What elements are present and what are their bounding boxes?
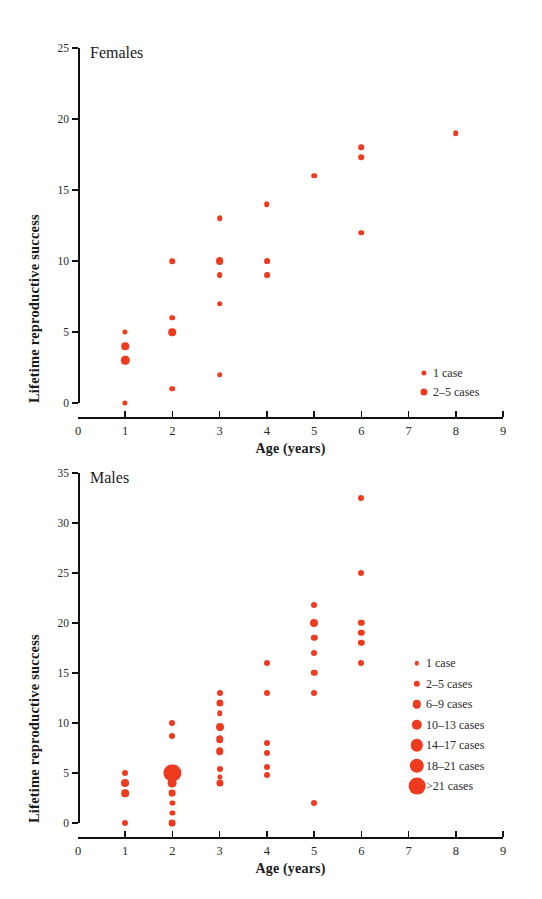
data-point — [358, 660, 364, 666]
data-point — [358, 495, 364, 501]
x-tick — [361, 831, 363, 837]
y-tick-label: 0 — [44, 817, 69, 829]
legend-swatch-cell — [408, 696, 426, 713]
x-tick — [455, 831, 457, 837]
data-point — [217, 766, 223, 772]
legend-marker — [421, 370, 426, 375]
legend-marker — [415, 661, 419, 665]
legend-males: 1 case2–5 cases6–9 cases10–13 cases14–17… — [408, 653, 484, 797]
legend-label: 2–5 cases — [426, 678, 472, 690]
data-point — [311, 173, 317, 179]
data-point — [216, 257, 224, 265]
x-tick — [313, 831, 315, 837]
data-point — [358, 570, 364, 576]
x-tick-label: 4 — [264, 844, 270, 859]
data-point — [311, 602, 317, 608]
y-tick — [72, 189, 78, 191]
x-tick — [172, 831, 174, 837]
data-point — [169, 820, 176, 827]
x-tick — [172, 411, 174, 417]
panel-title-females: Females — [90, 44, 143, 62]
y-tick — [72, 402, 78, 404]
data-point — [121, 789, 129, 797]
legend-swatch-cell — [408, 675, 426, 692]
data-point — [216, 779, 223, 786]
y-tick-label: 30 — [44, 517, 69, 529]
y-tick-label: 5 — [44, 767, 69, 779]
x-tick-label: 5 — [311, 424, 317, 439]
data-point — [217, 372, 223, 378]
data-point — [217, 710, 223, 716]
x-tick-label: 3 — [217, 424, 223, 439]
data-point — [169, 790, 176, 797]
legend-marker — [414, 681, 420, 687]
data-point — [168, 779, 177, 788]
panel-males: 051015202530350123456789 Males Lifetime … — [0, 455, 542, 899]
x-axis-line — [78, 417, 503, 419]
legend-swatch-cell — [408, 655, 426, 672]
y-tick — [72, 672, 78, 674]
data-point — [217, 690, 223, 696]
x-tick-label: 8 — [453, 424, 459, 439]
data-point — [311, 800, 317, 806]
data-point — [264, 201, 270, 207]
x-tick-label: 4 — [264, 424, 270, 439]
y-tick-label: 15 — [44, 667, 69, 679]
x-tick-label: 1 — [122, 844, 128, 859]
y-tick — [72, 260, 78, 262]
x-tick-label: 5 — [311, 844, 317, 859]
y-tick — [72, 622, 78, 624]
data-point — [169, 328, 177, 336]
x-tick — [502, 831, 504, 837]
data-point — [169, 733, 175, 739]
x-tick — [219, 411, 221, 417]
legend-marker — [409, 778, 426, 795]
y-tick — [72, 572, 78, 574]
plot-area-females: 05101520250123456789 — [78, 48, 503, 403]
legend-marker — [411, 739, 423, 751]
y-tick-label: 10 — [44, 255, 69, 267]
x-tick — [266, 831, 268, 837]
legend-label: >21 cases — [426, 780, 473, 792]
y-tick-label: 35 — [44, 467, 69, 479]
data-point — [122, 770, 128, 776]
data-point — [121, 342, 129, 350]
x-tick-label: 9 — [500, 844, 506, 859]
y-tick-label: 25 — [44, 567, 69, 579]
x-tick — [455, 411, 457, 417]
panel-title-males: Males — [90, 469, 129, 487]
data-point — [311, 670, 317, 676]
data-point — [264, 750, 270, 756]
legend-swatch-cell — [408, 778, 426, 795]
x-tick-label: 9 — [500, 424, 506, 439]
legend-row: 10–13 cases — [408, 715, 484, 736]
y-axis-line — [78, 48, 80, 403]
figure-root: 05101520250123456789 Females Lifetime re… — [0, 0, 542, 899]
data-point — [264, 740, 270, 746]
x-tick-label: 1 — [122, 424, 128, 439]
data-point — [122, 820, 128, 826]
x-axis-line — [78, 837, 503, 839]
data-point — [170, 386, 176, 392]
legend-marker — [412, 720, 422, 730]
data-point — [264, 764, 270, 770]
data-point — [264, 772, 270, 778]
legend-row: >21 cases — [408, 776, 484, 797]
y-tick-label: 0 — [44, 397, 69, 409]
x-axis-title-males: Age (years) — [78, 861, 503, 877]
y-axis-title-males: Lifetime reproductive success — [26, 634, 43, 823]
data-point — [359, 155, 365, 161]
y-tick-label: 20 — [44, 617, 69, 629]
legend-row: 6–9 cases — [408, 694, 484, 715]
legend-label: 14–17 cases — [426, 739, 484, 751]
legend-label: 1 case — [426, 657, 456, 669]
data-point — [311, 635, 317, 641]
y-axis-line — [78, 473, 80, 823]
data-point — [216, 747, 224, 755]
data-point — [123, 400, 128, 405]
legend-row: 14–17 cases — [408, 735, 484, 756]
y-tick-label: 5 — [44, 326, 69, 338]
data-point — [216, 699, 223, 706]
x-tick — [408, 831, 410, 837]
data-point — [453, 130, 459, 136]
